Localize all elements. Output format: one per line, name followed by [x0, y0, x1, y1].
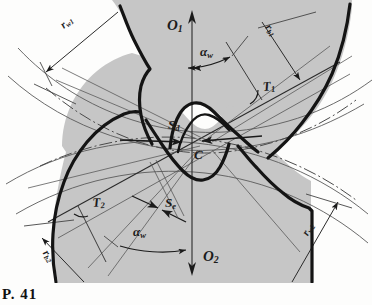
figure-caption: P. 41 [2, 286, 37, 300]
label-alpha-w-bottom: αw [133, 225, 146, 239]
label-alpha-w-top: αw [200, 45, 213, 59]
label-se: Se [165, 196, 176, 210]
label-sd: Sd [168, 118, 180, 132]
gear-meshing-figure: rw1 O1 αw rb1 T1 Sd C T2 Se αw rb2 O2 rw… [0, 0, 372, 305]
label-o2: O2 [203, 249, 219, 265]
label-o1: O1 [167, 18, 183, 34]
label-t2: T2 [92, 195, 105, 210]
label-c: C [194, 148, 203, 161]
label-t1: T1 [262, 79, 276, 95]
gear-diagram-svg [0, 0, 372, 305]
